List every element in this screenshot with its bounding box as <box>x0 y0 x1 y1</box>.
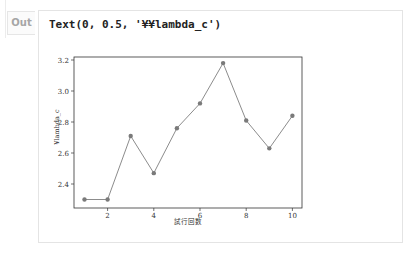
data-point <box>244 118 248 122</box>
data-point <box>152 171 156 175</box>
data-point <box>267 146 271 150</box>
x-tick-label: 8 <box>244 212 248 220</box>
y-tick-label: 2.4 <box>58 181 70 189</box>
y-tick-label: 3.2 <box>58 57 69 65</box>
y-axis-label: ¥lambda_c <box>53 109 61 146</box>
x-tick-label: 4 <box>152 212 157 220</box>
y-tick-label: 3.0 <box>58 88 69 96</box>
data-point <box>198 101 202 105</box>
data-point <box>290 114 294 118</box>
data-point <box>82 197 86 201</box>
x-tick-label: 2 <box>105 212 109 220</box>
x-tick-label: 10 <box>288 212 297 220</box>
x-axis-label: 試行回数 <box>174 217 202 226</box>
series-line <box>85 63 293 199</box>
data-point <box>129 134 133 138</box>
line-chart: 246810 2.42.62.83.03.2 試行回数 ¥lambda_c <box>0 0 420 256</box>
plot-frame <box>74 57 302 208</box>
data-point <box>105 197 109 201</box>
y-tick-label: 2.6 <box>58 150 70 158</box>
data-point <box>175 126 179 130</box>
data-point <box>221 61 225 65</box>
